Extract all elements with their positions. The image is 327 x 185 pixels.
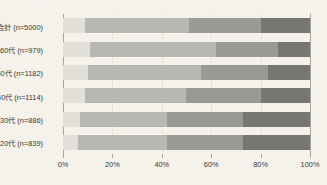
cropped-header-text: · · · · · · · · · · [0, 0, 327, 8]
gridline-60% [211, 14, 212, 154]
x-tick-label: 40% [154, 160, 169, 169]
plot-area: 合計 (n=5000)60代 (n=979)50代 (n=1182)40代 (n… [63, 14, 310, 154]
x-tick-label: 100% [301, 160, 320, 169]
bar-segment-2 [85, 88, 186, 103]
bar-segment-4 [261, 18, 310, 33]
category-label: 合計 (n=5000) [0, 21, 43, 32]
tick-60% [211, 154, 212, 158]
bar-segment-2 [80, 112, 166, 127]
bar-segment-3 [167, 135, 244, 150]
x-axis-tick-labels: 0%20%40%60%80%100% [63, 160, 310, 172]
bar-segment-1 [63, 112, 80, 127]
bar-segment-3 [167, 112, 244, 127]
x-tick-label: 20% [105, 160, 120, 169]
stacked-bar-chart: · · · · · · · · · · 合計 (n=5000)60代 (n=97… [0, 0, 327, 185]
bar-row [63, 88, 310, 103]
bar-segment-4 [261, 88, 310, 103]
bar-segment-3 [189, 18, 261, 33]
tick-100% [310, 154, 311, 158]
bar-row [63, 112, 310, 127]
category-label: 20代 (n=839) [0, 137, 43, 148]
category-label: 30代 (n=886) [0, 114, 43, 125]
gridline-80% [261, 14, 262, 154]
gridline-20% [112, 14, 113, 154]
tick-0% [63, 154, 64, 158]
bar-segment-4 [243, 112, 310, 127]
bar-segment-1 [63, 42, 90, 57]
bar-segment-3 [216, 42, 278, 57]
gridline-40% [162, 14, 163, 154]
category-label: 60代 (n=979) [0, 44, 43, 55]
bar-segment-2 [78, 135, 167, 150]
bar-row [63, 65, 310, 80]
bar-segment-3 [186, 88, 260, 103]
gridline-0% [63, 14, 64, 154]
bar-segment-2 [90, 42, 216, 57]
tick-80% [261, 154, 262, 158]
category-label: 40代 (n=1114) [0, 91, 43, 102]
bar-row [63, 18, 310, 33]
bar-segment-3 [201, 65, 268, 80]
bar-segment-1 [63, 65, 88, 80]
x-tick-label: 0% [58, 160, 69, 169]
bar-row [63, 42, 310, 57]
bar-segment-2 [88, 65, 202, 80]
gridline-100% [310, 14, 311, 154]
x-tick-label: 60% [204, 160, 219, 169]
bar-segment-1 [63, 18, 85, 33]
bar-segment-2 [85, 18, 189, 33]
bar-segment-4 [268, 65, 310, 80]
bar-segment-4 [278, 42, 310, 57]
bar-segment-4 [243, 135, 310, 150]
tick-20% [112, 154, 113, 158]
x-tick-label: 80% [253, 160, 268, 169]
tick-40% [162, 154, 163, 158]
bar-segment-1 [63, 88, 85, 103]
category-label: 50代 (n=1182) [0, 67, 43, 78]
bar-segment-1 [63, 135, 78, 150]
bar-row [63, 135, 310, 150]
